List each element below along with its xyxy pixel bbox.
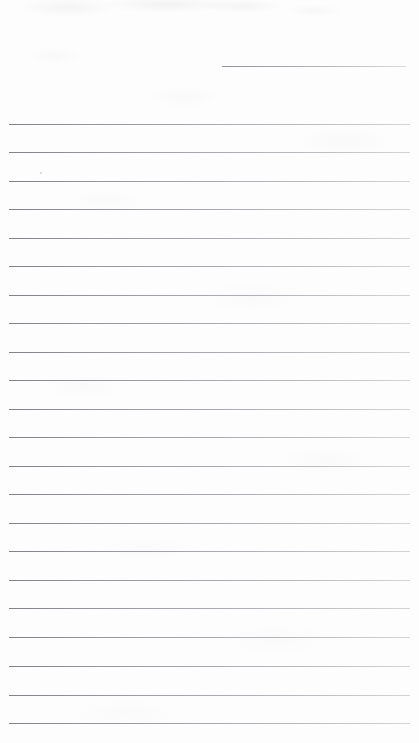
rule-line xyxy=(9,695,410,696)
scan-speck-artifact xyxy=(40,172,42,174)
rule-line xyxy=(9,323,410,324)
rule-line xyxy=(9,723,410,724)
rule-line xyxy=(9,295,410,296)
rule-line xyxy=(9,409,410,410)
scanned-page xyxy=(0,0,419,743)
rule-line xyxy=(9,152,410,153)
rule-line xyxy=(9,523,410,524)
header-rule-line xyxy=(222,66,406,67)
rule-line xyxy=(9,466,410,467)
rule-line xyxy=(9,266,410,267)
rule-line xyxy=(9,181,410,182)
rule-line xyxy=(9,209,410,210)
rule-line xyxy=(9,494,410,495)
rule-line xyxy=(9,551,410,552)
paper-texture xyxy=(0,0,419,743)
rule-line xyxy=(9,238,410,239)
rule-line xyxy=(9,608,410,609)
rule-line xyxy=(9,124,410,125)
rule-line xyxy=(9,437,410,438)
rule-line xyxy=(9,352,410,353)
rule-line xyxy=(9,380,410,381)
rule-line xyxy=(9,580,410,581)
rule-line xyxy=(9,637,410,638)
rule-line xyxy=(9,666,410,667)
